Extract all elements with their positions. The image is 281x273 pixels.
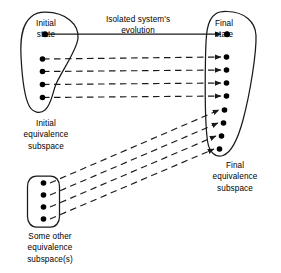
dot-final-5 xyxy=(222,107,228,113)
dot-final-2 xyxy=(224,67,230,73)
label-initial-state: Initial state xyxy=(24,18,68,41)
dot-final-6 xyxy=(221,120,227,126)
connector-dashed-3 xyxy=(43,83,221,85)
connector-dashed-4 xyxy=(43,96,221,98)
label-some-other-equivalence-subspace: Some other equivalence subspace(s) xyxy=(8,231,92,265)
dot-final-7 xyxy=(219,133,225,139)
dot-other-2 xyxy=(41,192,47,198)
final-subspace-dots xyxy=(217,31,230,152)
dot-other-3 xyxy=(41,204,47,210)
connector-dashed-2 xyxy=(43,70,221,72)
label-isolated-system-evolution: Isolated system's evolution xyxy=(90,14,186,37)
dot-initial-4 xyxy=(40,95,46,101)
label-final-state: Final state xyxy=(202,18,246,41)
dot-final-1 xyxy=(224,54,230,60)
label-initial-equivalence-subspace: Initial equivalence subspace xyxy=(10,118,82,152)
label-final-equivalence-subspace: Final equivalence subspace xyxy=(196,160,274,194)
equivalence-subspace-diagram: Initial state Final state Isolated syste… xyxy=(0,0,281,273)
dot-final-4 xyxy=(224,93,230,99)
dot-initial-3 xyxy=(40,82,46,88)
dot-final-3 xyxy=(224,80,230,86)
initial-subspace-dots xyxy=(40,31,48,100)
dot-other-1 xyxy=(41,180,47,186)
dot-other-4 xyxy=(41,216,47,222)
dot-final-8 xyxy=(217,146,223,152)
other-subspace-dots xyxy=(41,180,47,222)
dot-initial-2 xyxy=(40,69,46,75)
dot-initial-1 xyxy=(40,56,46,62)
